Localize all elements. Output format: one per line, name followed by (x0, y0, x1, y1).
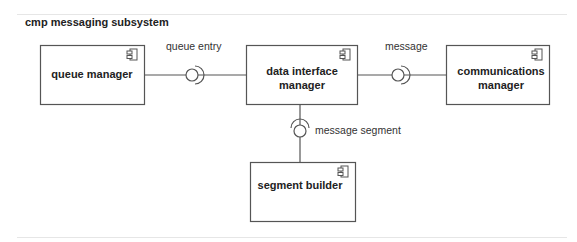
component-label: queue manager (51, 68, 133, 80)
component-label-line-2: manager (478, 79, 525, 91)
component-label: segment builder (258, 179, 344, 191)
component-diagram: queue entry message message segment queu… (0, 0, 577, 242)
component-communications-manager[interactable]: communications manager (447, 46, 550, 105)
component-icon (127, 49, 137, 60)
interface-label-queue-entry: queue entry (166, 40, 222, 52)
component-segment-builder[interactable]: segment builder (251, 163, 356, 222)
component-queue-manager[interactable]: queue manager (41, 46, 145, 105)
component-icon (340, 49, 350, 60)
component-icon (532, 49, 542, 60)
component-label-line-2: manager (279, 79, 326, 91)
component-label-line-1: communications (457, 65, 544, 77)
component-icon (338, 166, 348, 177)
interface-label-message-segment: message segment (315, 124, 401, 136)
component-label-line-1: data interface (266, 65, 338, 77)
interface-label-message: message (385, 40, 428, 52)
ball-icon (186, 69, 198, 81)
component-data-interface-manager[interactable]: data interface manager (247, 46, 358, 105)
ball-icon (392, 69, 404, 81)
ball-icon (294, 125, 306, 137)
